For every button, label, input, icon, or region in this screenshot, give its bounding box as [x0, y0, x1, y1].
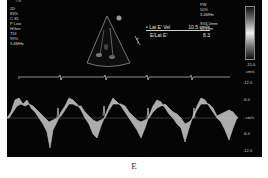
tissue-doppler-spectrum — [7, 98, 238, 148]
ecg-trace — [20, 75, 230, 80]
orientation-marker-icon — [117, 16, 122, 21]
sector-image — [87, 16, 130, 67]
sample-volume-marker-icon — [135, 36, 140, 45]
ultrasound-display: TIB 2D 83% C 35 P Low HGen TDI 99% 3.4MH… — [7, 0, 262, 157]
image-graphics — [7, 0, 262, 157]
figure-caption: E — [0, 161, 268, 171]
